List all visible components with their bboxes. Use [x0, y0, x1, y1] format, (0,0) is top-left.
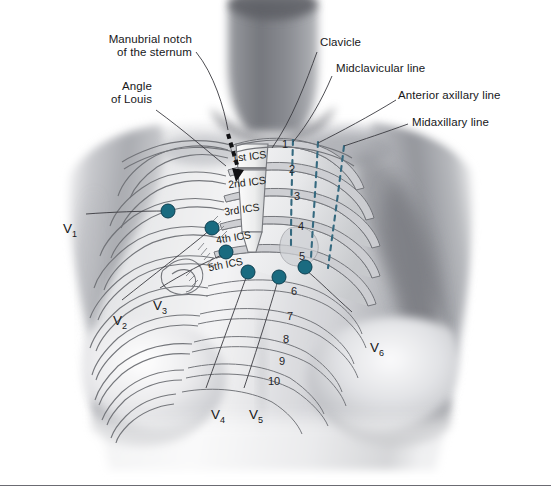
label-v1: V1	[48, 206, 77, 254]
label-v3-base: V	[153, 298, 162, 313]
label-v3-sub: 3	[162, 306, 167, 316]
label-angle-of-louis-line1: Angle	[52, 80, 152, 94]
chest-lead-placement-figure: Manubrial notch of the sternum Angle of …	[0, 0, 551, 493]
label-v2-base: V	[113, 313, 122, 328]
label-v6-base: V	[370, 340, 379, 355]
anatomy-illustration	[0, 0, 551, 493]
label-v4-base: V	[211, 407, 220, 422]
label-rib-8: 8	[283, 333, 289, 345]
label-v2-sub: 2	[122, 321, 127, 331]
figure-baseline-rule	[0, 485, 551, 486]
label-v4-sub: 4	[220, 415, 225, 425]
label-v2: V2	[98, 298, 127, 346]
label-v5-base: V	[249, 407, 258, 422]
label-v5: V5	[234, 392, 263, 440]
label-v5-sub: 5	[258, 415, 263, 425]
label-manubrial-notch-line1: Manubrial notch	[62, 33, 192, 47]
label-rib-10: 10	[268, 375, 280, 387]
label-rib-2: 2	[289, 163, 295, 175]
label-manubrial-notch-line2: of the sternum	[62, 46, 192, 60]
label-midclavicular-line: Midclavicular line	[336, 62, 425, 76]
label-rib-6: 6	[291, 285, 297, 297]
label-rib-1: 1	[282, 138, 288, 150]
label-rib-3: 3	[294, 190, 300, 202]
label-clavicle: Clavicle	[320, 36, 361, 50]
electrode-v5	[272, 270, 286, 284]
label-rib-7: 7	[287, 310, 293, 322]
label-angle-of-louis-line2: of Louis	[52, 93, 152, 107]
electrode-v4	[241, 265, 255, 279]
label-v4: V4	[196, 392, 225, 440]
electrode-v6	[298, 260, 312, 274]
label-v6: V6	[355, 325, 384, 373]
electrode-v1	[161, 204, 175, 218]
label-rib-4: 4	[298, 220, 304, 232]
label-anterior-axillary-line: Anterior axillary line	[398, 89, 501, 103]
label-v3: V3	[138, 283, 167, 331]
label-rib-5: 5	[299, 250, 305, 262]
label-v6-sub: 6	[379, 348, 384, 358]
label-rib-9: 9	[279, 355, 285, 367]
label-v1-sub: 1	[72, 229, 77, 239]
label-midaxillary-line: Midaxillary line	[412, 116, 489, 130]
label-v1-base: V	[63, 221, 72, 236]
